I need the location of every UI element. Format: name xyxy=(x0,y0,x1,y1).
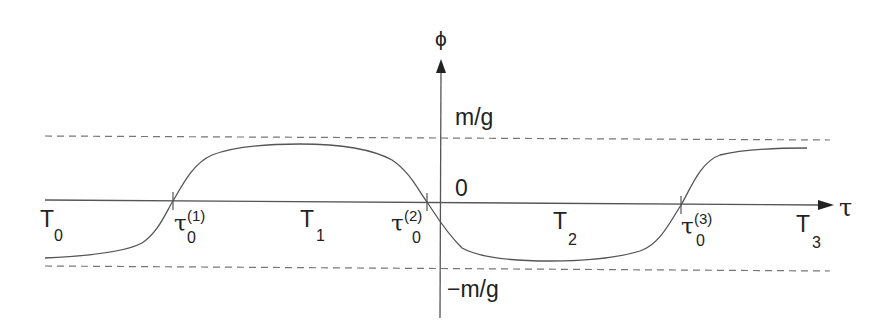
crossing-label-superscript: (2) xyxy=(404,208,422,223)
region-label-subscript: 0 xyxy=(54,228,63,244)
crossing-label-base: τ xyxy=(681,215,694,238)
phi-axis-label: ϕ xyxy=(435,28,447,49)
region-label-subscript: 1 xyxy=(316,228,325,244)
crossing-label-superscript: (3) xyxy=(694,211,712,226)
tau-axis-label: τ xyxy=(839,196,852,220)
phi-axis-arrow-icon xyxy=(436,59,446,73)
crossing-label-base: τ xyxy=(174,212,187,235)
region-label-subscript: 2 xyxy=(568,232,577,248)
phi-axis xyxy=(440,70,441,318)
crossing-label-superscript: (1) xyxy=(187,208,205,223)
lower-asymptote-dashed-line xyxy=(45,266,830,271)
upper-level-label: m/g xyxy=(455,106,493,129)
lower-level-label: −m/g xyxy=(447,278,499,301)
region-label-subscript: 3 xyxy=(812,235,821,251)
region-label-base: T xyxy=(300,208,314,231)
crossing-label-subscript: 0 xyxy=(696,233,705,249)
upper-asymptote-dashed-line xyxy=(45,136,830,140)
region-label-base: T xyxy=(796,213,810,236)
zero-level-label: 0 xyxy=(455,177,468,200)
region-label-base: T xyxy=(40,208,54,231)
crossing-label-subscript: 0 xyxy=(412,230,421,246)
region-label-base: T xyxy=(553,210,567,233)
tau-axis-arrow-icon xyxy=(818,200,834,210)
crossing-label-subscript: 0 xyxy=(187,230,196,246)
tau-axis xyxy=(45,200,820,205)
crossing-label-base: τ xyxy=(391,212,404,235)
